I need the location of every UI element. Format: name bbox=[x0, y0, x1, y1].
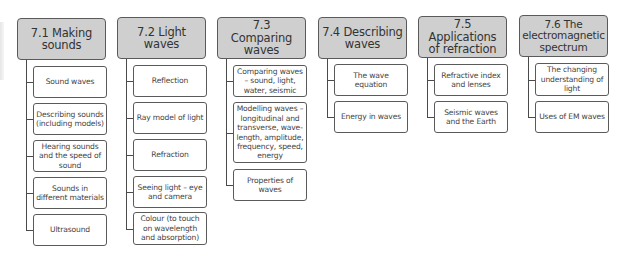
connector-branch bbox=[126, 192, 133, 193]
subtopic-box: Sounds in different materials bbox=[33, 177, 107, 209]
topic-column-7-2: 7.2 Light waves Reflection Ray model of … bbox=[117, 0, 212, 255]
topic-header: 7.4 Describing waves bbox=[318, 17, 407, 59]
connector-branch bbox=[327, 117, 334, 118]
subtopic-box: The changing understanding of light bbox=[535, 63, 609, 96]
connector-spine bbox=[327, 59, 328, 117]
subtopic-box: Refractive index and lenses bbox=[434, 64, 508, 96]
connector-branch bbox=[126, 118, 133, 119]
connector-spine bbox=[427, 58, 428, 117]
subtopic-box: Comparing waves – sound, light, water, s… bbox=[233, 65, 307, 97]
subtopic-box: Ultrasound bbox=[33, 214, 107, 246]
connector-branch bbox=[126, 81, 133, 82]
connector-branch bbox=[327, 80, 334, 81]
connector-spine bbox=[126, 59, 127, 229]
connector-spine bbox=[226, 59, 227, 185]
connector-branch bbox=[528, 80, 535, 81]
subtopic-box: Properties of waves bbox=[233, 169, 307, 201]
topic-header: 7.2 Light waves bbox=[117, 17, 206, 59]
subtopic-box: Uses of EM waves bbox=[535, 101, 609, 133]
subtopic-box: Energy in waves bbox=[334, 101, 408, 133]
connector-branch bbox=[427, 80, 434, 81]
subtopic-box: Reflection bbox=[133, 65, 207, 97]
connector-branch bbox=[226, 81, 233, 82]
connector-branch bbox=[26, 82, 33, 83]
connector-branch bbox=[126, 229, 133, 230]
subtopic-box: Hearing sounds and the speed of sound bbox=[33, 140, 107, 172]
subtopic-box: Refraction bbox=[133, 139, 207, 171]
connector-branch bbox=[427, 117, 434, 118]
subtopic-box: Colour (to touch on wavelength and absor… bbox=[133, 212, 207, 245]
connector-spine bbox=[26, 60, 27, 230]
subtopic-box: Seismic waves and the Earth bbox=[434, 101, 508, 133]
topic-header: 7.5 Applications of refraction bbox=[418, 16, 507, 58]
connector-branch bbox=[126, 155, 133, 156]
connector-branch bbox=[26, 193, 33, 194]
subtopic-box: Sound waves bbox=[33, 66, 107, 98]
connector-branch bbox=[26, 156, 33, 157]
subtopic-box: Describing sounds (including models) bbox=[33, 103, 107, 135]
subtopic-box: Modelling waves – longitudinal and trans… bbox=[233, 102, 307, 163]
topic-header: 7.1 Making sounds bbox=[17, 18, 106, 60]
left-edge-artifact bbox=[0, 22, 4, 80]
connector-branch bbox=[528, 117, 535, 118]
connector-branch bbox=[226, 133, 233, 134]
subtopic-box: Seeing light – eye and camera bbox=[133, 176, 207, 208]
subtopic-box: The wave equation bbox=[334, 64, 408, 96]
connector-branch bbox=[26, 230, 33, 231]
topic-header: 7.3 Comparing waves bbox=[217, 17, 306, 59]
connector-branch bbox=[226, 185, 233, 186]
topic-column-7-6: 7.6 The electromagnetic spectrum The cha… bbox=[519, 0, 614, 255]
subtopic-box: Ray model of light bbox=[133, 102, 207, 134]
topic-header: 7.6 The electromagnetic spectrum bbox=[519, 15, 608, 57]
connector-spine bbox=[528, 57, 529, 117]
connector-branch bbox=[26, 119, 33, 120]
topic-column-7-1: 7.1 Making sounds Sound waves Describing… bbox=[17, 0, 112, 255]
topic-column-7-4: 7.4 Describing waves The wave equation E… bbox=[318, 0, 413, 255]
topic-column-7-5: 7.5 Applications of refraction Refractiv… bbox=[418, 0, 513, 255]
topic-column-7-3: 7.3 Comparing waves Comparing waves – so… bbox=[217, 0, 312, 255]
